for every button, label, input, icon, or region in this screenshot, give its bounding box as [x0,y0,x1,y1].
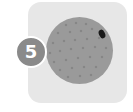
ball-image [46,17,113,84]
step-number: 5 [25,41,38,62]
step-number-badge: 5 [15,36,47,68]
dotted-ball-icon [46,17,113,84]
